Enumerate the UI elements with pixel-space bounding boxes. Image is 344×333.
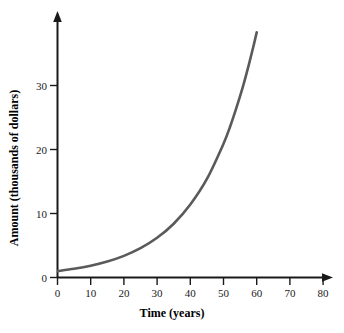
y-axis-title: Amount (thousands of dollars)	[7, 90, 22, 246]
xtick-label-30: 30	[152, 287, 163, 299]
xtick-label-50: 50	[218, 287, 229, 299]
chart-background	[0, 0, 344, 333]
xtick-label-80: 80	[318, 287, 329, 299]
xtick-label-60: 60	[251, 287, 262, 299]
exponential-growth-chart	[0, 0, 344, 333]
xtick-label-40: 40	[185, 287, 196, 299]
x-axis-title: Time (years)	[140, 306, 205, 321]
ytick-label-20: 20	[32, 144, 47, 156]
xtick-label-20: 20	[118, 287, 129, 299]
ytick-label-30: 30	[32, 80, 47, 92]
xtick-label-70: 70	[284, 287, 295, 299]
xtick-label-0: 0	[55, 287, 61, 299]
ytick-label-10: 10	[32, 208, 47, 220]
xtick-label-10: 10	[85, 287, 96, 299]
ytick-label-0: 0	[32, 272, 47, 284]
